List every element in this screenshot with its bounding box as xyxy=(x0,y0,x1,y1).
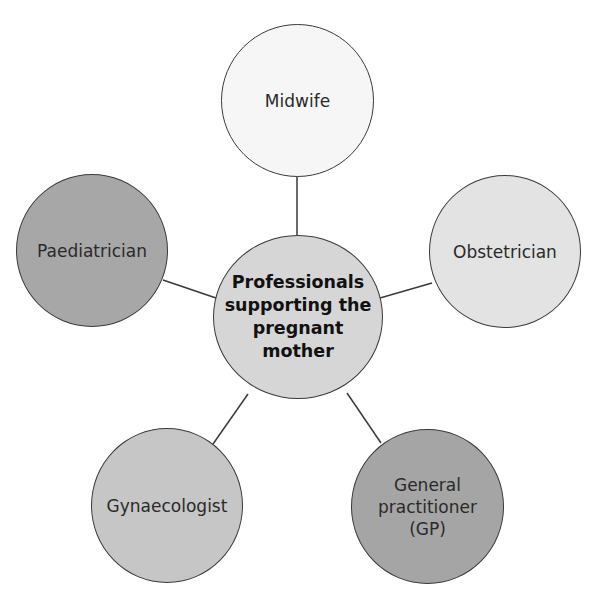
node-center-hub: Professionals supporting the pregnant mo… xyxy=(213,235,383,399)
node-label: Paediatrician xyxy=(37,240,147,262)
center-label-line: Professionals xyxy=(232,272,365,292)
node-label-line: General xyxy=(394,475,461,495)
center-label-line: supporting the xyxy=(225,295,372,315)
center-label: Professionals supporting the pregnant mo… xyxy=(225,271,372,363)
node-label-line: (GP) xyxy=(409,519,446,539)
node-gynaecologist: Gynaecologist xyxy=(91,428,243,583)
node-label: General practitioner (GP) xyxy=(378,474,477,540)
node-label: Midwife xyxy=(265,90,330,112)
center-label-line: mother xyxy=(262,341,334,361)
node-label: Gynaecologist xyxy=(107,495,228,517)
node-midwife: Midwife xyxy=(221,24,374,177)
node-label: Obstetrician xyxy=(453,241,557,263)
center-label-line: pregnant xyxy=(253,318,344,338)
node-obstetrician: Obstetrician xyxy=(429,175,581,328)
node-general-practitioner: General practitioner (GP) xyxy=(351,429,504,584)
node-paediatrician: Paediatrician xyxy=(16,174,168,327)
node-label-line: practitioner xyxy=(378,497,477,517)
